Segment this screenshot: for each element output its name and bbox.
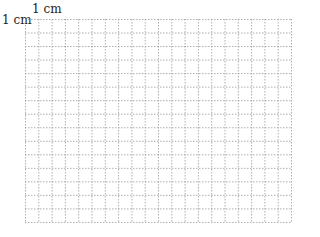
column-width-label: 1 cm bbox=[32, 3, 62, 15]
centimeter-grid bbox=[25, 19, 292, 223]
grid-lines bbox=[25, 19, 292, 223]
